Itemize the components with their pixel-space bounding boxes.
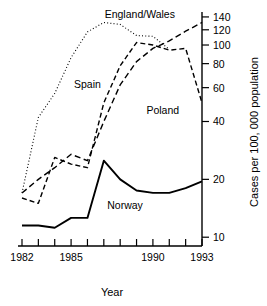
x-tick-label: 1993 [190, 251, 214, 263]
series-label-poland: Poland [146, 104, 179, 116]
y-tick-label: 10 [213, 231, 225, 243]
y-axis-tick-labels: 1020406080100120140 [213, 11, 231, 243]
x-axis: 1982198519901993 [10, 239, 214, 263]
series-inline-labels: SpainPolandEngland/WalesNorway [74, 8, 179, 211]
chart-canvas: 1020406080100120140 1982198519901993 Spa… [0, 0, 267, 306]
x-axis-tick-labels: 1982198519901993 [10, 251, 214, 263]
series-label-norway: Norway [107, 199, 143, 211]
x-tick-label: 1982 [10, 251, 34, 263]
y-tick-label: 140 [213, 11, 231, 23]
series-lines [22, 22, 202, 227]
y-tick-label: 40 [213, 115, 225, 127]
series-line-poland [22, 43, 202, 204]
y-tick-label: 60 [213, 82, 225, 94]
x-tick-label: 1990 [141, 251, 165, 263]
series-label-spain: Spain [74, 78, 101, 90]
y-tick-label: 100 [213, 39, 231, 51]
y-axis-ticks [202, 17, 209, 237]
y-axis-title: Cases per 100, 000 population [248, 57, 260, 207]
series-line-norway [22, 161, 202, 228]
series-label-england-wales: England/Wales [105, 8, 175, 20]
x-axis-title: Year [101, 286, 124, 298]
y-tick-label: 80 [213, 58, 225, 70]
x-tick-label: 1985 [59, 251, 83, 263]
y-tick-label: 120 [213, 24, 231, 36]
y-tick-label: 20 [213, 173, 225, 185]
x-axis-ticks [22, 239, 202, 246]
line-chart: 1020406080100120140 1982198519901993 Spa… [0, 0, 267, 306]
y-axis: 1020406080100120140 [202, 11, 231, 246]
